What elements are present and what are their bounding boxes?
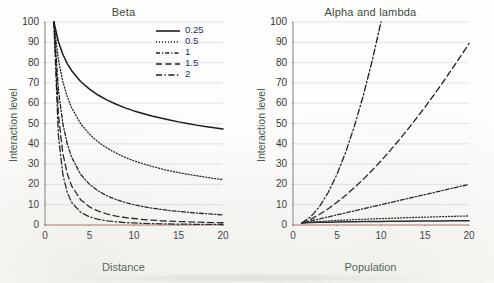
y-tick-label: 80: [263, 57, 287, 68]
plot-area-alpha-lambda: [293, 22, 469, 225]
legend-label: 2: [185, 70, 190, 78]
x-tick-label: 5: [78, 230, 102, 241]
chart-svg: [292, 21, 470, 226]
legend-item: 0.25: [155, 25, 204, 35]
y-tick-label: 90: [15, 36, 39, 47]
x-tick-label: 20: [457, 230, 481, 241]
legend-item: 0.5: [155, 36, 204, 46]
figure-two-panel-line-charts: Beta Interaction level Distance 0.250.51…: [0, 0, 494, 283]
legend-item: 2: [155, 69, 204, 79]
y-tick-label: 20: [15, 178, 39, 189]
y-tick-label: 40: [15, 138, 39, 149]
y-tick-label: 40: [263, 138, 287, 149]
x-tick-label: 0: [33, 230, 57, 241]
y-tick-label: 10: [263, 199, 287, 210]
legend-item: 1: [155, 47, 204, 57]
chart-panel-alpha-lambda: Alpha and lambda Interaction level Popul…: [247, 0, 494, 283]
y-tick-label: 100: [263, 16, 287, 27]
y-tick-label: 30: [263, 158, 287, 169]
x-tick-label: 15: [167, 230, 191, 241]
chart-panel-beta: Beta Interaction level Distance 0.250.51…: [0, 0, 247, 283]
y-tick-label: 90: [263, 36, 287, 47]
x-tick-label: 0: [281, 230, 305, 241]
legend-label: 1: [185, 48, 190, 56]
series-line-1-5: [302, 44, 469, 223]
y-tick-label: 70: [263, 77, 287, 88]
legend-item: 1.5: [155, 58, 204, 68]
x-axis-label-left: Distance: [0, 261, 247, 273]
y-tick-label: 70: [15, 77, 39, 88]
legend-swatch-0-25: [155, 26, 181, 34]
legend-swatch-2: [155, 70, 181, 78]
y-tick-label: 10: [15, 199, 39, 210]
chart-legend-beta: 0.250.511.52: [155, 25, 204, 80]
legend-label: 1.5: [185, 59, 198, 67]
y-tick-label: 0: [263, 219, 287, 230]
legend-swatch-0-5: [155, 37, 181, 45]
y-tick-label: 80: [15, 57, 39, 68]
legend-label: 0.25: [185, 26, 204, 34]
x-tick-label: 20: [211, 230, 235, 241]
series-line-2: [302, 22, 381, 223]
y-tick-label: 60: [15, 97, 39, 108]
legend-swatch-1: [155, 48, 181, 56]
y-tick-label: 30: [15, 158, 39, 169]
y-tick-label: 50: [15, 118, 39, 129]
y-tick-label: 0: [15, 219, 39, 230]
y-tick-label: 100: [15, 16, 39, 27]
x-tick-label: 10: [122, 230, 146, 241]
y-tick-label: 20: [263, 178, 287, 189]
x-axis-label-right: Population: [247, 261, 494, 273]
y-tick-label: 50: [263, 118, 287, 129]
x-tick-label: 5: [325, 230, 349, 241]
x-tick-label: 10: [369, 230, 393, 241]
x-tick-label: 15: [413, 230, 437, 241]
y-tick-label: 60: [263, 97, 287, 108]
legend-swatch-1-5: [155, 59, 181, 67]
legend-label: 0.5: [185, 37, 198, 45]
